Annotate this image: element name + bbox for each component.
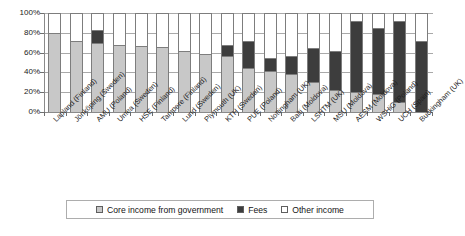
bar-segment bbox=[113, 13, 126, 45]
bar-segment bbox=[242, 41, 255, 69]
bar-segment bbox=[329, 51, 342, 91]
y-tick-label: 60% bbox=[0, 49, 40, 57]
bar-segment bbox=[135, 13, 148, 46]
bar-segment bbox=[329, 13, 342, 51]
bar-segment bbox=[372, 28, 385, 94]
bar-segment bbox=[285, 56, 298, 75]
bar-segment bbox=[285, 13, 298, 56]
bar-segment bbox=[372, 13, 385, 28]
bar-segment bbox=[48, 13, 61, 33]
bar-segment bbox=[307, 13, 320, 48]
bar-segment bbox=[48, 33, 61, 112]
y-tick-label: 100% bbox=[0, 9, 40, 17]
bar-segment bbox=[350, 13, 363, 21]
legend-entry: Other income bbox=[281, 205, 344, 215]
bar bbox=[48, 13, 61, 112]
legend-entry: Fees bbox=[237, 205, 267, 215]
y-axis: 0%20%40%60%80%100% bbox=[0, 13, 40, 112]
bar-segment bbox=[393, 13, 406, 21]
bar-segment bbox=[242, 13, 255, 41]
y-tick-label: 20% bbox=[0, 88, 40, 96]
bar-segment bbox=[178, 13, 191, 51]
legend-label: Fees bbox=[248, 205, 267, 215]
bar-segment bbox=[221, 13, 234, 45]
bar-segment bbox=[264, 13, 277, 58]
bar-segment bbox=[350, 21, 363, 92]
legend-label: Other income bbox=[292, 205, 344, 215]
legend-entry: Core income from government bbox=[96, 205, 223, 215]
legend-swatch-icon bbox=[96, 206, 103, 213]
legend-swatch-icon bbox=[237, 206, 244, 213]
x-axis-labels: Lapland (Finland)Jönköping (Sweden)AMU (… bbox=[0, 112, 434, 192]
bar-segment bbox=[91, 30, 104, 43]
chart-legend: Core income from governmentFeesOther inc… bbox=[66, 200, 374, 219]
bar-segment bbox=[264, 58, 277, 72]
legend-label: Core income from government bbox=[107, 205, 223, 215]
y-tick-label: 40% bbox=[0, 68, 40, 76]
legend-swatch-icon bbox=[281, 206, 288, 213]
bar-segment bbox=[221, 45, 234, 56]
bar-segment bbox=[156, 13, 169, 47]
bar-segment bbox=[91, 13, 104, 30]
bar-segment bbox=[307, 48, 320, 83]
bar-segment bbox=[415, 13, 428, 41]
bar-segment bbox=[70, 13, 83, 41]
y-tick-label: 80% bbox=[0, 29, 40, 37]
bar-segment bbox=[199, 13, 212, 54]
